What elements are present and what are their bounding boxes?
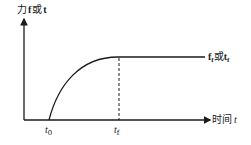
y-axis-label: 力f或t	[17, 5, 47, 15]
tick-label-t0: t0	[45, 125, 52, 137]
tick-label-tf: tf	[114, 125, 119, 137]
curve-label: ff或tf	[208, 52, 229, 64]
rising-curve	[49, 57, 118, 120]
x-axis-label: 时间t	[212, 115, 237, 125]
